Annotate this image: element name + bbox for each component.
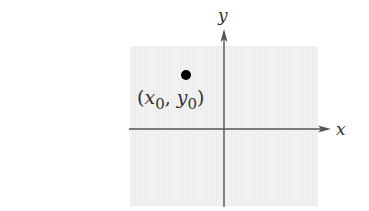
x-axis-label: x (336, 119, 346, 139)
point-label-separator: , (165, 86, 177, 108)
point-label-open: ( (137, 86, 144, 108)
point-label-y-sub: 0 (188, 95, 198, 113)
point-label-close: ) (197, 86, 204, 108)
point-label-x-var: x (144, 86, 155, 108)
y-axis-label: y (217, 5, 228, 25)
point-label-x-sub: 0 (155, 95, 165, 113)
point-label-y-var: y (176, 86, 188, 108)
coordinate-plane-diagram: x y (x0, y0) (0, 0, 369, 211)
point-marker (181, 70, 191, 80)
